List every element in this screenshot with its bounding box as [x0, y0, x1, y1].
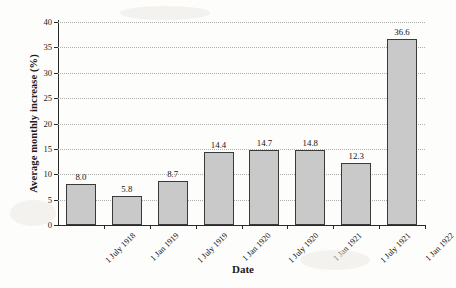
bar-value-label: 8.7 [167, 169, 178, 181]
gridline [58, 73, 425, 74]
y-tick-mark [54, 124, 58, 125]
bar [204, 152, 234, 225]
x-tick-mark [425, 225, 426, 229]
x-tick-label: 1 Jan 1922 [424, 231, 456, 263]
y-tick-mark [54, 149, 58, 150]
paper-blotch [10, 200, 56, 226]
y-tick-label: 15 [43, 144, 52, 154]
y-tick-label: 35 [43, 42, 52, 52]
x-axis-title: Date [58, 263, 428, 275]
bar [158, 181, 188, 225]
bar-value-label: 14.7 [257, 138, 272, 150]
bar-value-label: 14.4 [211, 140, 226, 152]
bar [295, 150, 325, 225]
y-tick-mark [54, 225, 58, 226]
gridline [58, 149, 425, 150]
x-tick-label: 1 July 1918 [103, 231, 137, 265]
y-tick-label: 30 [43, 68, 52, 78]
y-tick-mark [54, 22, 58, 23]
x-tick-label: 1 July 1919 [195, 231, 229, 265]
y-axis-line [58, 20, 59, 225]
y-tick-mark [54, 47, 58, 48]
x-tick-mark [287, 225, 288, 229]
paper-blotch [300, 250, 370, 270]
x-tick-mark [379, 225, 380, 229]
bar [341, 163, 371, 225]
y-tick-label: 40 [43, 17, 52, 27]
bar-value-label: 36.6 [394, 27, 409, 39]
bar-value-label: 14.8 [303, 138, 318, 150]
x-tick-label: 1 July 1921 [379, 231, 413, 265]
bar [112, 196, 142, 225]
x-tick-label: 1 Jan 1920 [240, 231, 272, 263]
y-tick-label: 20 [43, 119, 52, 129]
y-tick-label: 10 [43, 169, 52, 179]
bar [387, 39, 417, 225]
gridline [58, 47, 425, 48]
gridline [58, 22, 425, 23]
y-tick-mark [54, 174, 58, 175]
y-tick-mark [54, 200, 58, 201]
y-tick-mark [54, 98, 58, 99]
y-tick-label: 25 [43, 93, 52, 103]
paper-blotch [120, 6, 210, 20]
x-tick-mark [104, 225, 105, 229]
plot-area: 0510152025303540 8.05.88.714.414.714.812… [58, 22, 425, 225]
bar-value-label: 12.3 [348, 151, 363, 163]
x-tick-label: 1 Jan 1919 [148, 231, 180, 263]
y-axis-title: Average monthly increase (%) [28, 29, 39, 219]
y-tick-mark [54, 73, 58, 74]
gridline [58, 124, 425, 125]
bar [249, 150, 279, 225]
bar-value-label: 5.8 [121, 184, 132, 196]
x-tick-mark [196, 225, 197, 229]
x-tick-mark [333, 225, 334, 229]
bar [66, 184, 96, 225]
bar-value-label: 8.0 [75, 172, 86, 184]
gridline [58, 98, 425, 99]
x-tick-mark [150, 225, 151, 229]
x-tick-mark [242, 225, 243, 229]
